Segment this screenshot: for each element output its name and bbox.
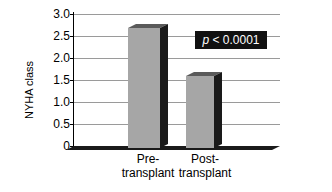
bar-post-transplant: [186, 72, 222, 148]
x-label-line: transplant: [175, 166, 235, 180]
p-value-text: < 0.0001: [209, 33, 259, 47]
x-label-line: Post-: [175, 152, 235, 166]
x-label-line: Pre-: [118, 152, 178, 166]
x-label-pre-transplant: Pre- transplant: [118, 152, 178, 180]
bar-pre-transplant: [128, 24, 168, 148]
x-label-post-transplant: Post- transplant: [175, 152, 235, 180]
p-value-annotation: p < 0.0001: [195, 31, 267, 49]
floor: [66, 146, 280, 150]
x-label-line: transplant: [118, 166, 178, 180]
